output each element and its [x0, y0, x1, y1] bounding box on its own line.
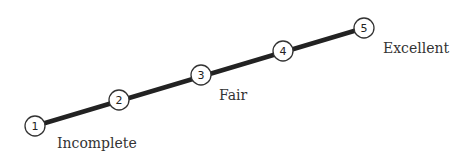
- node-4-number: 4: [280, 45, 287, 58]
- node-1: 1: [25, 116, 45, 136]
- scale-graphic: 1 2 3 4 5: [0, 0, 460, 157]
- node-5-number: 5: [361, 22, 368, 35]
- node-3-number: 3: [198, 69, 205, 82]
- node-2: 2: [109, 90, 129, 110]
- label-fair: Fair: [219, 87, 247, 103]
- node-4: 4: [273, 41, 293, 61]
- label-excellent: Excellent: [383, 40, 449, 56]
- rating-scale-diagram: 1 2 3 4 5 Incomplete Fair Excellent: [0, 0, 460, 157]
- node-3: 3: [191, 65, 211, 85]
- node-2-number: 2: [116, 94, 123, 107]
- node-5: 5: [354, 18, 374, 38]
- label-incomplete: Incomplete: [57, 135, 137, 151]
- node-1-number: 1: [32, 120, 39, 133]
